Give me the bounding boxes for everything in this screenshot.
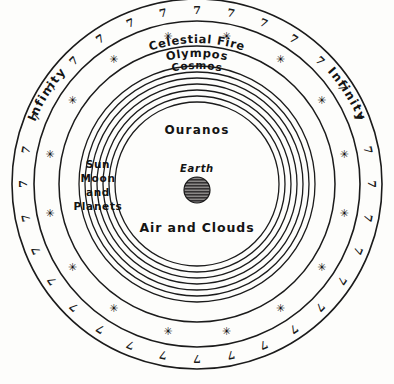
- flame-icon: 7: [158, 348, 168, 362]
- star-icon: ✳: [45, 148, 54, 161]
- star-icon: ✳: [68, 94, 77, 107]
- star-icon: ✳: [222, 325, 231, 338]
- star-icon: ✳: [317, 94, 326, 107]
- star-icon: ✳: [317, 261, 326, 274]
- flame-icon: 7: [287, 321, 301, 336]
- star-icon: ✳: [276, 302, 285, 315]
- label-ouranos: Ouranos: [164, 123, 229, 137]
- flame-icon: 7: [226, 6, 236, 20]
- flame-icon: 7: [313, 300, 328, 315]
- cosmology-diagram: 77777777777777777777777777777777 ✳✳✳✳✳✳✳…: [0, 0, 394, 384]
- label-infinity-left: Infinity: [25, 64, 69, 123]
- star-icon: ✳: [276, 53, 285, 66]
- flame-icon: 7: [17, 180, 30, 188]
- flame-icon: 7: [287, 32, 301, 47]
- flame-icon: 7: [193, 4, 201, 17]
- flame-icon: 7: [19, 145, 33, 155]
- label-and: and: [86, 186, 110, 198]
- flame-icon: 7: [361, 213, 375, 223]
- flame-icon: 7: [94, 32, 108, 47]
- star-icon: ✳: [68, 261, 77, 274]
- flame-icon: 7: [350, 245, 365, 257]
- flame-icon: 7: [45, 274, 60, 288]
- flame-icon: 7: [67, 54, 82, 69]
- flame-icon: 7: [158, 6, 168, 20]
- earth-body: [184, 177, 210, 203]
- flame-icon: 7: [193, 352, 201, 365]
- flame-icon: 7: [19, 213, 33, 223]
- flame-icon: 7: [258, 16, 270, 31]
- star-icon: ✳: [340, 207, 349, 220]
- star-icon: ✳: [109, 302, 118, 315]
- star-icon: ✳: [340, 148, 349, 161]
- label-air-and-clouds: Air and Clouds: [139, 220, 254, 235]
- cosmos-canvas: 77777777777777777777777777777777 ✳✳✳✳✳✳✳…: [0, 0, 394, 384]
- label-planets: Planets: [73, 200, 122, 212]
- label-sun: Sun: [86, 158, 111, 170]
- flame-icon: 7: [361, 145, 375, 155]
- label-infinity-right: Infinity: [325, 64, 369, 123]
- flame-icon: 7: [94, 321, 108, 336]
- flame-icon: 7: [365, 180, 378, 188]
- flame-icon: 7: [313, 54, 328, 69]
- flame-icon: 7: [67, 300, 82, 315]
- flame-icon: 7: [124, 16, 136, 31]
- flame-icon: 7: [124, 337, 136, 352]
- flame-icon: 7: [226, 348, 236, 362]
- label-earth: Earth: [180, 163, 214, 174]
- flame-icon: 7: [334, 274, 349, 288]
- earth-body-group: [184, 177, 210, 203]
- flame-icon: 7: [258, 337, 270, 352]
- star-icon: ✳: [45, 207, 54, 220]
- star-icon: ✳: [109, 53, 118, 66]
- label-moon: Moon: [80, 172, 115, 184]
- star-icon: ✳: [163, 325, 172, 338]
- flame-icon: 7: [29, 245, 44, 257]
